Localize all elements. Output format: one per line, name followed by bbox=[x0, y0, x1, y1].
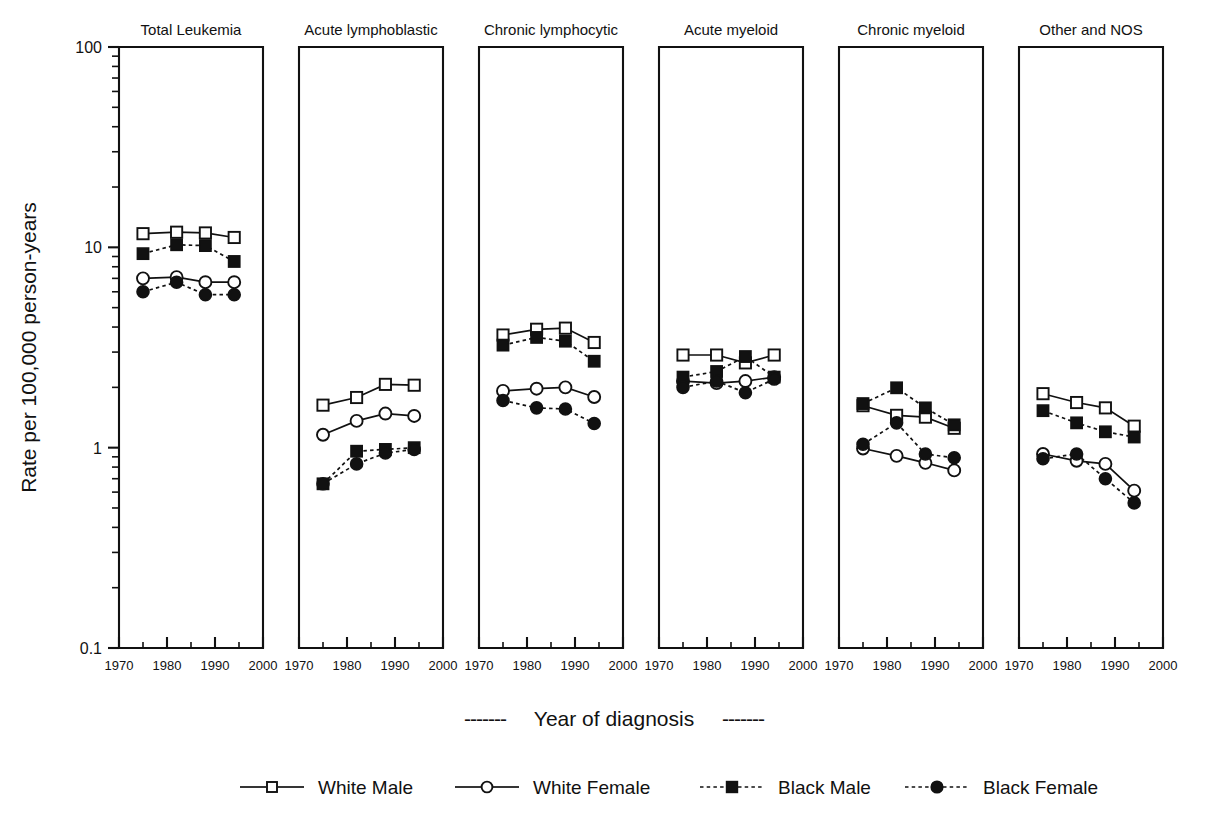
x-tick-label: 1990 bbox=[921, 658, 950, 673]
series-marker-black-female bbox=[739, 387, 751, 399]
series-marker-white-male bbox=[1100, 402, 1111, 413]
panel-title: Acute lymphoblastic bbox=[304, 21, 438, 38]
series-line-white-male bbox=[323, 384, 414, 405]
series-line-white-female bbox=[143, 277, 234, 282]
x-tick-label: 1990 bbox=[1101, 658, 1130, 673]
series-line-black-male bbox=[1043, 411, 1134, 437]
series-marker-black-female bbox=[137, 286, 149, 298]
x-tick-label: 1990 bbox=[561, 658, 590, 673]
series-line-white-female bbox=[323, 414, 414, 435]
legend-marker bbox=[267, 782, 277, 792]
x-tick-label: 1980 bbox=[1053, 658, 1082, 673]
series-marker-white-male bbox=[769, 349, 780, 360]
series-marker-black-male bbox=[531, 332, 542, 343]
x-tick-label: 1990 bbox=[381, 658, 410, 673]
series-marker-white-female bbox=[948, 464, 960, 476]
series-marker-black-female bbox=[948, 452, 960, 464]
legend-item-black-female[interactable]: Black Female bbox=[905, 777, 1098, 798]
series-marker-black-male bbox=[1100, 426, 1111, 437]
series-marker-black-male bbox=[171, 239, 182, 250]
series-marker-black-female bbox=[588, 418, 600, 430]
x-tick-label: 2000 bbox=[789, 658, 818, 673]
series-marker-black-male bbox=[949, 419, 960, 430]
legend-label: White Female bbox=[533, 777, 650, 798]
chart-canvas: Rate per 100,000 person-years1001010.1To… bbox=[0, 0, 1229, 824]
series-marker-white-female bbox=[588, 391, 600, 403]
x-tick-label: 1980 bbox=[153, 658, 182, 673]
series-marker-white-female bbox=[408, 410, 420, 422]
y-tick-label: 1 bbox=[93, 440, 102, 457]
series-marker-white-male bbox=[380, 379, 391, 390]
legend-label: Black Female bbox=[983, 777, 1098, 798]
series-marker-white-male bbox=[589, 337, 600, 348]
series-marker-black-female bbox=[1099, 473, 1111, 485]
series-marker-white-male bbox=[1037, 388, 1048, 399]
series-line-black-female bbox=[863, 423, 954, 458]
leukemia-incidence-figure: Rate per 100,000 person-years1001010.1To… bbox=[0, 0, 1229, 824]
series-marker-white-female bbox=[317, 429, 329, 441]
series-marker-black-male bbox=[1037, 405, 1048, 416]
series-marker-white-male bbox=[1129, 421, 1140, 432]
x-tick-label: 2000 bbox=[429, 658, 458, 673]
series-marker-black-male bbox=[497, 340, 508, 351]
panel-title: Acute myeloid bbox=[684, 21, 778, 38]
series-marker-white-male bbox=[137, 228, 148, 239]
series-marker-white-male bbox=[200, 227, 211, 238]
panel-1: Total Leukemia1970198019902000 bbox=[105, 21, 278, 673]
legend-item-white-male[interactable]: White Male bbox=[240, 777, 413, 798]
series-marker-black-male bbox=[1129, 431, 1140, 442]
series-marker-black-female bbox=[768, 373, 780, 385]
series-marker-white-female bbox=[739, 375, 751, 387]
panel-6: Other and NOS1970198019902000 bbox=[1005, 21, 1178, 673]
series-marker-black-female bbox=[559, 403, 571, 415]
series-marker-black-male bbox=[589, 356, 600, 367]
series-marker-black-male bbox=[137, 248, 148, 259]
x-axis-dash-right: ------- bbox=[722, 707, 765, 730]
series-marker-white-male bbox=[560, 323, 571, 334]
series-marker-white-female bbox=[379, 408, 391, 420]
x-tick-label: 1980 bbox=[513, 658, 542, 673]
legend-item-white-female[interactable]: White Female bbox=[455, 777, 650, 798]
series-marker-white-male bbox=[711, 349, 722, 360]
series-marker-white-female bbox=[559, 381, 571, 393]
series-marker-white-male bbox=[171, 227, 182, 238]
series-marker-white-female bbox=[891, 450, 903, 462]
x-tick-label: 1990 bbox=[741, 658, 770, 673]
series-marker-black-female bbox=[677, 381, 689, 393]
series-marker-white-male bbox=[409, 380, 420, 391]
x-tick-label: 1970 bbox=[465, 658, 494, 673]
y-tick-label: 0.1 bbox=[80, 640, 102, 657]
x-tick-label: 2000 bbox=[609, 658, 638, 673]
series-line-white-male bbox=[503, 328, 594, 342]
series-marker-black-female bbox=[1071, 448, 1083, 460]
x-tick-label: 1980 bbox=[693, 658, 722, 673]
series-marker-white-female bbox=[1099, 458, 1111, 470]
series-marker-black-male bbox=[351, 446, 362, 457]
x-axis-label: Year of diagnosis bbox=[534, 707, 694, 730]
series-marker-black-male bbox=[891, 382, 902, 393]
legend-label: Black Male bbox=[778, 777, 871, 798]
legend-item-black-male[interactable]: Black Male bbox=[700, 777, 871, 798]
x-tick-label: 1990 bbox=[201, 658, 230, 673]
series-marker-black-female bbox=[1128, 497, 1140, 509]
panel-title: Chronic myeloid bbox=[857, 21, 965, 38]
series-marker-black-male bbox=[920, 402, 931, 413]
legend-marker bbox=[931, 781, 943, 793]
panel-2: Acute lymphoblastic1970198019902000 bbox=[285, 21, 458, 673]
series-marker-black-female bbox=[531, 402, 543, 414]
series-marker-black-female bbox=[408, 443, 420, 455]
x-tick-label: 2000 bbox=[249, 658, 278, 673]
y-tick-label: 100 bbox=[75, 39, 102, 56]
series-marker-white-male bbox=[677, 349, 688, 360]
series-marker-black-male bbox=[560, 336, 571, 347]
panel-frame bbox=[1019, 47, 1163, 648]
x-axis-dash-left: ------- bbox=[464, 707, 507, 730]
series-marker-black-male bbox=[229, 256, 240, 267]
x-tick-label: 1970 bbox=[1005, 658, 1034, 673]
y-axis-label: Rate per 100,000 person-years bbox=[17, 202, 40, 493]
x-tick-label: 2000 bbox=[1149, 658, 1178, 673]
panel-frame bbox=[659, 47, 803, 648]
series-line-black-male bbox=[143, 245, 234, 262]
series-line-black-female bbox=[143, 282, 234, 295]
series-line-white-female bbox=[1043, 454, 1134, 491]
